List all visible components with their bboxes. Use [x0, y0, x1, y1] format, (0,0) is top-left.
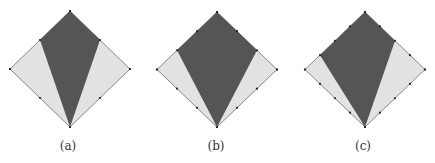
division-dot — [99, 39, 101, 41]
division-dot — [379, 25, 381, 27]
panel-c-label: (c) — [343, 139, 383, 153]
division-dot — [379, 112, 381, 114]
division-dot — [196, 107, 198, 109]
division-dot — [129, 68, 131, 70]
division-dot — [39, 39, 41, 41]
division-dot — [256, 88, 258, 90]
division-dot — [156, 68, 158, 70]
division-dot — [349, 112, 351, 114]
division-dot — [216, 126, 218, 128]
division-dot — [409, 83, 411, 85]
shaded-kite — [320, 12, 395, 127]
panel-c-diamond — [304, 11, 426, 128]
division-dot — [319, 54, 321, 56]
division-dot — [364, 126, 366, 128]
division-dot — [9, 68, 11, 70]
division-dot — [99, 97, 101, 99]
division-dot — [176, 49, 178, 51]
division-dot — [304, 68, 306, 70]
division-dot — [394, 97, 396, 99]
panel-a-diamond — [9, 10, 131, 128]
division-dot — [424, 68, 426, 70]
division-dot — [256, 49, 258, 51]
division-dot — [236, 30, 238, 32]
panel-b-label: (b) — [196, 139, 236, 153]
division-dot — [319, 83, 321, 85]
division-dot — [334, 40, 336, 42]
division-dot — [216, 11, 218, 13]
division-dot — [176, 88, 178, 90]
division-dot — [39, 97, 41, 99]
division-dot — [196, 30, 198, 32]
division-dot — [409, 54, 411, 56]
division-dot — [349, 25, 351, 27]
division-dot — [334, 97, 336, 99]
division-dot — [394, 40, 396, 42]
division-dot — [364, 11, 366, 13]
division-dot — [276, 68, 278, 70]
division-dot — [69, 126, 71, 128]
shaded-kite — [177, 12, 257, 127]
division-dot — [236, 107, 238, 109]
division-dot — [69, 10, 71, 12]
panel-b-diamond — [156, 11, 278, 128]
panel-a-label: (a) — [48, 139, 88, 153]
